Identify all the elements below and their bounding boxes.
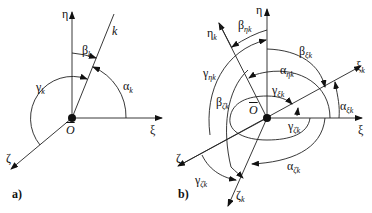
zeta-axis-label-b: ζ [176,152,181,164]
beta-zeta-k-label: βζk [216,96,229,111]
diagram-canvas [0,0,372,213]
panel-a-label: a) [12,188,22,200]
alpha-xi-k-label: αξk [340,100,353,115]
beta-eta-k-label: βηk [238,19,252,34]
zeta-axis-label-a: ζ [6,152,11,164]
gamma-xi-k-label: γξk [272,84,284,99]
xi-axis-label-b: ξ [358,124,363,136]
gamma-eta-k-label: γηk [203,67,216,82]
k-line-label: k [112,25,117,37]
eta-axis-label-a: η [62,8,68,20]
gamma-k-label: γk [36,81,45,96]
alpha-eta-k-label: αηk [280,64,294,79]
eta-k-axis-label: ηk [207,27,217,42]
alpha-k-label: αk [123,80,133,95]
xi-k-axis-label: ξk [356,60,365,75]
panel-b-label: b) [178,188,189,200]
panel-a-axes [11,12,162,169]
zeta-k-axis-label: ζk [236,189,245,204]
xi-axis-label-a: ξ [150,124,155,136]
alpha-zeta-k-label: αζk [287,160,300,175]
origin-label-a: O [66,124,75,136]
gamma-zeta-k-label: γζk [195,174,207,189]
eta-axis-label-b: η [256,4,262,16]
origin-label-b: O [249,104,258,116]
beta-xi-k-label: βξk [299,45,312,60]
origin-point-a [68,114,76,122]
beta-k-label: βk [82,44,92,59]
origin-point-b [263,114,271,122]
gamma-zeta-k-inner-label: γζk [288,120,300,135]
